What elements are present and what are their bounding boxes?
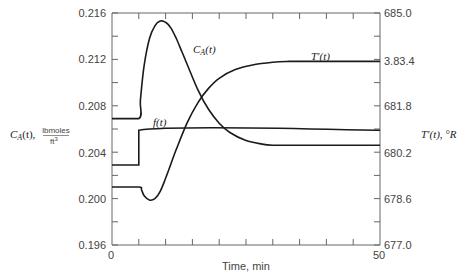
left-tick-label: 0.216 — [78, 7, 106, 19]
left-tick-label: 0.204 — [78, 147, 106, 159]
right-tick-label: 678.6 — [384, 193, 412, 205]
left-axis-title-var: CA(t), — [10, 128, 36, 142]
right-tick-label: 680.2 — [384, 147, 412, 159]
left-tick-label: 0.212 — [78, 53, 106, 65]
left-axis-title: CA(t), lbmoles ft3 — [10, 126, 70, 146]
x-axis-title: Time, min — [222, 260, 270, 272]
left-axis-unit-numerator: lbmoles — [42, 126, 70, 135]
right-tick-label: 677.0 — [384, 239, 412, 251]
right-tick-label: 681.8 — [384, 100, 412, 112]
series-t-label: T'(t) — [311, 50, 330, 63]
right-axis-title: T'(t), °R — [421, 128, 457, 141]
left-tick-label: 0.196 — [78, 239, 106, 251]
series-t-line — [112, 61, 380, 200]
right-tick-label: 3.83.4 — [384, 55, 415, 67]
series-ca-label: CA(t) — [193, 43, 216, 57]
x-tick-label-fifty: 50 — [373, 249, 385, 261]
chart: 0.216 0.212 0.208 0.204 0.200 0.196 685.… — [0, 0, 468, 280]
right-axis-tick-labels: 685.0 3.83.4 681.8 680.2 678.6 677.0 — [384, 7, 415, 251]
series-f-line — [112, 128, 380, 165]
series-f-label: f(t) — [153, 116, 167, 129]
left-tick-label: 0.208 — [78, 100, 106, 112]
right-tick-label: 685.0 — [384, 7, 412, 19]
x-tick-label-zero: 0 — [108, 249, 114, 261]
left-tick-label: 0.200 — [78, 193, 106, 205]
left-axis-unit-denominator: ft3 — [50, 136, 58, 146]
left-axis-tick-labels: 0.216 0.212 0.208 0.204 0.200 0.196 — [78, 7, 106, 251]
